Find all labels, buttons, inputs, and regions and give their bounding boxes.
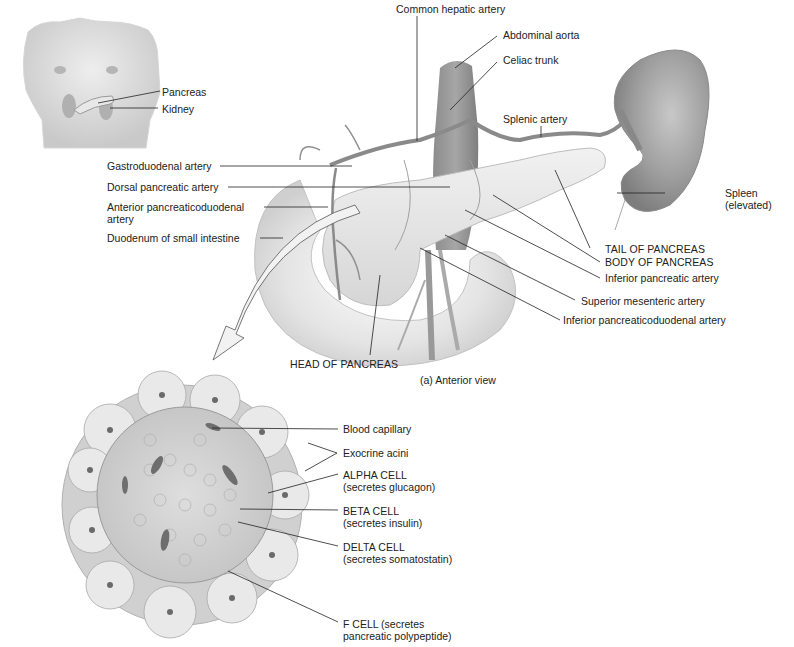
label-tail-of-pancreas: TAIL OF PANCREAS: [605, 243, 705, 255]
label-dorsal-pancreatic-artery: Dorsal pancreatic artery: [107, 181, 218, 193]
label-abdominal-aorta: Abdominal aorta: [503, 29, 579, 41]
label-beta-cell-line1: BETA CELL: [343, 505, 399, 517]
label-spleen-line2: (elevated): [725, 199, 772, 211]
label-duodenum: Duodenum of small intestine: [107, 232, 240, 244]
label-body-of-pancreas: BODY OF PANCREAS: [605, 256, 714, 268]
label-delta-cell-line1: DELTA CELL: [343, 541, 405, 553]
label-exocrine-acini: Exocrine acini: [343, 447, 408, 459]
label-delta-cell-line2: (secretes somatostatin): [343, 553, 452, 565]
label-inferior-pancreaticoduodenal-artery: Inferior pancreaticoduodenal artery: [563, 314, 726, 326]
kidney-left-shape: [62, 94, 76, 118]
label-f-cell-line2: pancreatic polypeptide): [343, 630, 452, 642]
label-head-of-pancreas: HEAD OF PANCREAS: [290, 358, 398, 370]
label-spleen-line1: Spleen: [725, 187, 758, 199]
label-alpha-cell-line2: (secretes glucagon): [343, 481, 435, 493]
label-anterior-pancreaticoduodenal-artery-line2: artery: [107, 213, 134, 225]
label-blood-capillary: Blood capillary: [343, 423, 411, 435]
torso-inset-illustration: [23, 18, 160, 148]
label-f-cell-line1: F CELL (secretes: [343, 618, 424, 630]
pancreas-shape: [323, 148, 606, 306]
label-alpha-cell-line1: ALPHA CELL: [343, 469, 407, 481]
label-beta-cell-line2: (secretes insulin): [343, 517, 422, 529]
label-superior-mesenteric-artery: Superior mesenteric artery: [581, 295, 705, 307]
label-anterior-pancreaticoduodenal-artery-line1: Anterior pancreaticoduodenal: [107, 201, 244, 213]
caption-anterior-view: (a) Anterior view: [420, 374, 496, 386]
label-kidney-inset: Kidney: [162, 103, 194, 115]
islet-illustration: [62, 371, 309, 638]
label-inferior-pancreatic-artery: Inferior pancreatic artery: [605, 272, 719, 284]
label-splenic-artery: Splenic artery: [503, 113, 567, 125]
label-pancreas-inset: Pancreas: [162, 86, 206, 98]
pancreatic-islet-shape: [97, 407, 273, 583]
label-gastroduodenal-artery: Gastroduodenal artery: [107, 160, 211, 172]
label-celiac-trunk: Celiac trunk: [503, 54, 558, 66]
label-common-hepatic-artery: Common hepatic artery: [396, 3, 505, 15]
